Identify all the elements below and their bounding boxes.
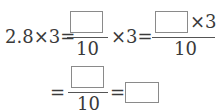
answer-box-final[interactable] [125, 82, 159, 103]
answer-box-numerator-2[interactable] [155, 11, 188, 33]
answer-box-numerator-3[interactable] [71, 66, 104, 88]
times-three-equals: ×3= [111, 28, 153, 46]
equals-sign-1: = [50, 84, 65, 102]
denominator-3: 10 [77, 95, 100, 110]
numerator-suffix-times-three: ×3 [190, 13, 217, 31]
answer-box-numerator-1[interactable] [70, 11, 103, 33]
denominator-2: 10 [174, 40, 197, 58]
equals-sign-2: = [110, 84, 125, 102]
expression-lhs: 2.8×3= [5, 28, 75, 46]
denominator-1: 10 [76, 40, 99, 58]
